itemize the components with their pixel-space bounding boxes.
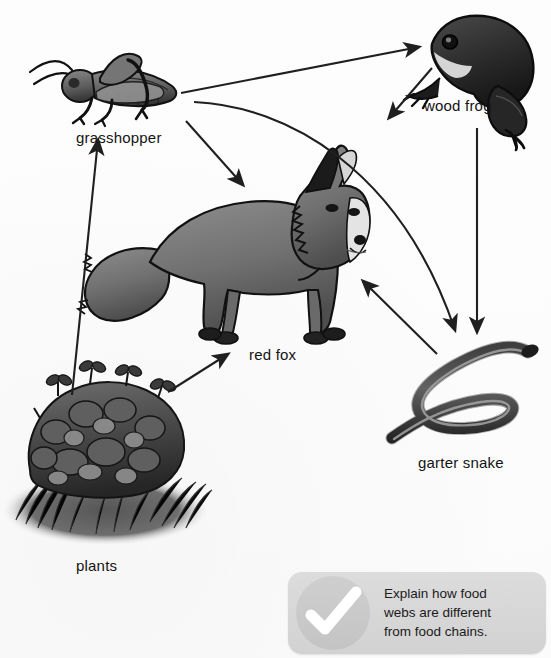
callout-line-3: from food chains. <box>384 622 534 641</box>
callout-text: Explain how food webs are different from… <box>384 584 534 641</box>
callout-line-2: webs are different <box>384 603 534 622</box>
label-grasshopper: grasshopper <box>76 130 162 145</box>
arrow-grasshopper-to-garter-snake <box>194 102 455 330</box>
arrow-garter-snake-to-red-fox <box>363 281 437 354</box>
arrow-plants-to-grasshopper <box>72 140 98 395</box>
arrow-grasshopper-to-red-fox <box>186 121 243 185</box>
label-wood-frog: wood frog <box>424 98 492 113</box>
question-callout: Explain how food webs are different from… <box>288 572 546 654</box>
arrow-plants-to-red-fox <box>168 354 228 392</box>
arrow-grasshopper-to-wood-frog <box>181 47 419 93</box>
food-web-diagram: grasshopper wood frog red fox garter sna… <box>0 0 551 658</box>
label-plants: plants <box>76 558 117 573</box>
label-red-fox: red fox <box>249 347 296 362</box>
check-icon <box>296 576 370 650</box>
label-garter-snake: garter snake <box>418 455 504 470</box>
callout-line-1: Explain how food <box>384 584 534 603</box>
